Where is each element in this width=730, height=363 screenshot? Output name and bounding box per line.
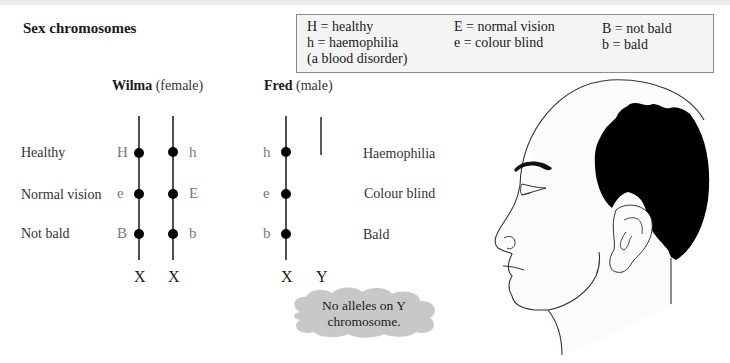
fred-x-chromosome bbox=[281, 116, 291, 260]
wilma-allele: b bbox=[189, 225, 197, 242]
fred-allele: b bbox=[263, 225, 271, 242]
callout-line: No alleles on Y bbox=[290, 298, 438, 314]
wilma-allele: E bbox=[189, 185, 198, 202]
wilma-allele: B bbox=[117, 225, 127, 242]
wilma-trait-haemophilia: Healthy bbox=[21, 145, 65, 161]
wilma-allele: e bbox=[117, 185, 124, 202]
wilma-x-chromosome-1 bbox=[134, 116, 144, 260]
fred-trait-haemophilia: Haemophilia bbox=[363, 146, 435, 162]
wilma-chromosome-label: X bbox=[168, 268, 180, 286]
wilma-allele: H bbox=[117, 144, 128, 161]
fred-chromosome-label: X bbox=[281, 268, 293, 286]
fred-allele: h bbox=[263, 144, 271, 161]
fred-trait-vision: Colour blind bbox=[364, 186, 435, 202]
wilma-chromosome-label: X bbox=[134, 268, 146, 286]
wilma-x-chromosome-2 bbox=[168, 116, 178, 260]
wilma-trait-baldness: Not bald bbox=[21, 226, 70, 242]
bald-man-head-illustration bbox=[495, 79, 709, 355]
callout-text: No alleles on Y chromosome. bbox=[290, 298, 438, 330]
wilma-allele: h bbox=[189, 144, 197, 161]
fred-trait-baldness: Bald bbox=[363, 227, 389, 243]
fred-allele: e bbox=[263, 185, 270, 202]
wilma-trait-vision: Normal vision bbox=[21, 187, 102, 203]
callout-line: chromosome. bbox=[290, 314, 438, 330]
fred-chromosome-label: Y bbox=[316, 268, 328, 286]
